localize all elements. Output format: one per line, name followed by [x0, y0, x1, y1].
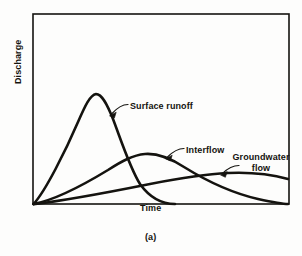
annotation-interflow: Interflow: [186, 145, 224, 155]
curve-groundwater-flow: [34, 173, 289, 204]
annotation-groundwater-flow: Groundwaterflow: [224, 152, 298, 174]
leader-surface-runoff: [110, 105, 129, 119]
hydrograph-figure: Discharge Time Surface runoff Interflow …: [0, 0, 302, 256]
annotation-groundwater-line2: flow: [252, 163, 270, 173]
leader-interflow: [166, 149, 184, 162]
annotation-surface-runoff: Surface runoff: [130, 101, 193, 111]
annotation-groundwater-line1: Groundwater: [232, 152, 289, 162]
panel-caption: (a): [145, 232, 156, 242]
plot-area: [0, 0, 302, 256]
x-axis-title: Time: [140, 203, 161, 213]
y-axis-title: Discharge: [13, 20, 23, 84]
